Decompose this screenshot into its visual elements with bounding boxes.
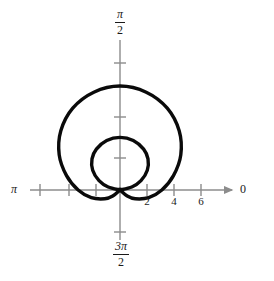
axis-label-3pi-over-2-denominator: 2 bbox=[113, 256, 129, 269]
polar-plot-canvas bbox=[0, 0, 274, 281]
axis-label-zero: 0 bbox=[240, 183, 246, 195]
polar-plot-figure: π 2 3π 2 π 0 2 4 6 bbox=[0, 0, 274, 281]
axis-label-3pi-over-2: 3π 2 bbox=[102, 240, 140, 269]
axis-label-pi-over-2-denominator: 2 bbox=[115, 24, 125, 37]
axis-label-pi-over-2-numerator: π bbox=[115, 8, 125, 21]
axis-label-3pi-over-2-numerator: 3π bbox=[113, 240, 129, 253]
x-tick-label-2: 2 bbox=[140, 196, 154, 207]
axis-label-pi: π bbox=[11, 183, 17, 195]
x-tick-label-4: 4 bbox=[167, 196, 181, 207]
axis-label-pi-over-2: π 2 bbox=[104, 8, 136, 37]
x-tick-label-6: 6 bbox=[194, 196, 208, 207]
